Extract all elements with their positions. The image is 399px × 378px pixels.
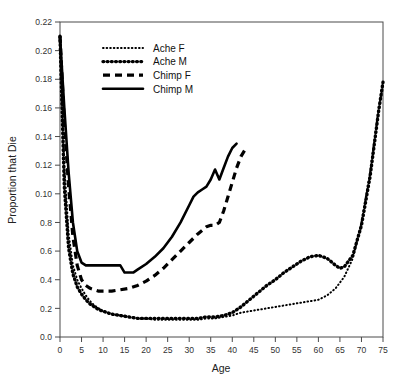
x-tick-label: 0 bbox=[58, 345, 63, 355]
x-tick-label: 65 bbox=[335, 345, 345, 355]
x-axis-label: Age bbox=[212, 362, 231, 374]
legend-label-ache-f: Ache F bbox=[153, 43, 185, 54]
chart-canvas: 0.00.20.40.60.80.100.120.140.160.180.200… bbox=[0, 0, 399, 378]
x-tick-label: 75 bbox=[378, 345, 388, 355]
x-tick-label: 60 bbox=[314, 345, 324, 355]
y-tick-label: 0.10 bbox=[35, 189, 52, 199]
x-tick-label: 15 bbox=[120, 345, 130, 355]
y-tick-label: 0.6 bbox=[40, 246, 52, 256]
x-tick-label: 50 bbox=[271, 345, 281, 355]
x-tick-label: 20 bbox=[141, 345, 151, 355]
y-axis-label: Proportion that Die bbox=[6, 136, 18, 224]
x-tick-label: 30 bbox=[184, 345, 194, 355]
x-tick-label: 55 bbox=[292, 345, 302, 355]
y-tick-label: 0.22 bbox=[35, 17, 52, 27]
y-tick-label: 0.8 bbox=[40, 218, 52, 228]
legend-label-chimp-m: Chimp M bbox=[153, 84, 193, 95]
legend-label-chimp-f: Chimp F bbox=[153, 70, 191, 81]
x-tick-label: 40 bbox=[227, 345, 237, 355]
x-tick-label: 45 bbox=[249, 345, 259, 355]
y-tick-label: 0.4 bbox=[40, 275, 52, 285]
y-tick-label: 0.18 bbox=[35, 74, 52, 84]
legend-label-ache-m: Ache M bbox=[153, 56, 187, 67]
y-tick-label: 0.16 bbox=[35, 103, 52, 113]
y-tick-label: 0.0 bbox=[40, 332, 52, 342]
mortality-chart: 0.00.20.40.60.80.100.120.140.160.180.200… bbox=[0, 0, 399, 378]
x-tick-label: 70 bbox=[357, 345, 367, 355]
y-tick-label: 0.20 bbox=[35, 46, 52, 56]
x-tick-label: 35 bbox=[206, 345, 216, 355]
y-tick-label: 0.2 bbox=[40, 304, 52, 314]
x-tick-label: 5 bbox=[79, 345, 84, 355]
y-tick-label: 0.14 bbox=[35, 132, 52, 142]
y-tick-label: 0.12 bbox=[35, 160, 52, 170]
x-tick-label: 25 bbox=[163, 345, 173, 355]
x-tick-label: 10 bbox=[98, 345, 108, 355]
